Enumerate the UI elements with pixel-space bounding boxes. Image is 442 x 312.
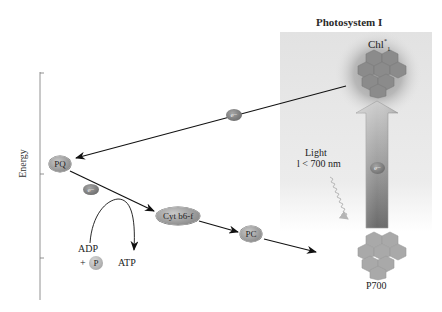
pc-node: PC: [240, 226, 262, 242]
chl-text: Chl: [368, 38, 384, 50]
chl-subscript: 1: [387, 45, 391, 53]
arrow-cyt-to-pc: [199, 221, 238, 232]
electron-top: e−: [226, 109, 242, 121]
plus-sign: +: [80, 258, 86, 268]
electron-pq: e−: [83, 184, 99, 195]
photosystem-diagram: Photosystem I Chl*1 Energy PQ e− e− e− C…: [0, 0, 442, 312]
atp-label: ATP: [118, 258, 136, 268]
pc-label: PC: [245, 229, 256, 239]
pq-label: PQ: [54, 159, 66, 169]
electron-pq-label: e−: [87, 186, 94, 194]
energy-axis-label: Energy: [17, 149, 28, 178]
photosystem-title: Photosystem I: [316, 17, 382, 28]
chl-superscript: *: [384, 38, 387, 44]
electron-top-label: e−: [230, 111, 237, 119]
energy-axis: [40, 72, 44, 300]
light-wavelength-label: l < 700 nm: [297, 159, 341, 169]
adp-label: ADP: [78, 244, 98, 254]
pq-node: PQ: [49, 156, 71, 172]
phosphate-label: P: [93, 258, 98, 268]
electron-arrow: e−: [370, 162, 385, 174]
cyt-b6f-node: Cyt b6-f: [156, 207, 200, 225]
arrow-pc-to-p700: [264, 239, 316, 252]
p700-icon: [358, 232, 406, 280]
light-label: Light: [305, 148, 327, 158]
phosphate-node: P: [89, 256, 103, 270]
p700-label: P700: [366, 281, 387, 291]
chl-label: Chl*1: [368, 38, 390, 53]
electron-arrow-label: e−: [374, 164, 381, 172]
cyt-b6f-label: Cyt b6-f: [163, 211, 193, 221]
